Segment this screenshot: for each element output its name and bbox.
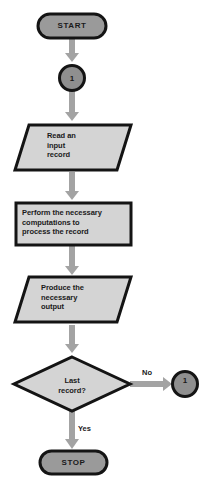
edge-decision-yes-to-stop [65, 410, 79, 449]
edge-output-to-decision [65, 325, 79, 353]
edge-start-to-connector [65, 36, 79, 62]
node-connector-right[interactable] [173, 372, 198, 397]
edge-process-to-output [65, 245, 79, 275]
edge-connector-to-read [65, 91, 79, 121]
edge-read-to-process [65, 172, 79, 200]
node-process[interactable] [16, 203, 131, 245]
node-decision[interactable] [14, 357, 130, 411]
node-start-terminator[interactable] [38, 14, 106, 38]
node-stop-terminator[interactable] [40, 451, 107, 474]
node-output-input-output[interactable] [15, 277, 131, 322]
edge-decision-no-to-connector [130, 377, 172, 391]
edge-label-no: No [142, 368, 152, 377]
node-read-input-output[interactable] [15, 125, 131, 170]
node-connector-top[interactable] [60, 66, 85, 91]
flowchart-diagram [0, 0, 207, 478]
edge-label-yes: Yes [78, 424, 91, 433]
